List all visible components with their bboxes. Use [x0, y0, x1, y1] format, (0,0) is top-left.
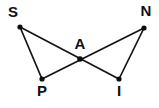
vertex-dot-s: [17, 24, 22, 29]
figure-background: [0, 0, 159, 108]
vertex-label-s: S: [8, 3, 18, 20]
vertex-label-n: N: [141, 2, 152, 19]
vertex-dot-i: [116, 76, 121, 81]
figure-canvas: S N A P I: [0, 0, 159, 108]
vertex-label-i: I: [117, 82, 121, 99]
vertex-label-a: A: [75, 35, 86, 52]
vertex-label-p: P: [37, 82, 47, 99]
vertex-dot-a: [77, 56, 83, 62]
vertex-dot-p: [39, 76, 44, 81]
geometry-figure: S N A P I: [0, 0, 159, 108]
vertex-dot-n: [141, 25, 146, 30]
